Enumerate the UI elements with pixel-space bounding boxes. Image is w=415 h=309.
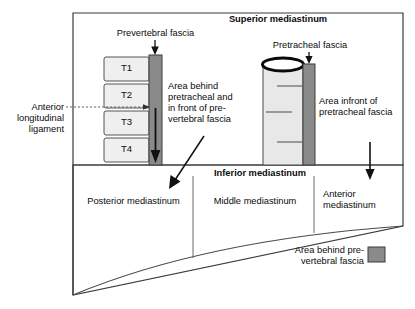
vertebra-label-t1: T1 xyxy=(104,62,149,73)
legend-color-swatch xyxy=(368,247,385,262)
superior-mediastinum-title: Superior mediastinum xyxy=(203,14,353,25)
pretracheal-fascia-label: Pretracheal fascia xyxy=(258,40,362,51)
area-behind-pretracheal-label-line1: Area behind xyxy=(168,81,218,92)
area-behind-pretracheal-label-line4: vertebral fascia xyxy=(168,114,231,125)
trachea-body xyxy=(263,64,303,165)
posterior-mediastinum-label: Posterior mediastinum xyxy=(76,196,191,207)
middle-mediastinum-label: Middle mediastinum xyxy=(199,196,311,207)
area-behind-pretracheal-label-line3: in front of pre- xyxy=(168,103,226,114)
anterior-longitudinal-ligament-label-line1: Anterior xyxy=(0,102,64,113)
vertebra-label-t4: T4 xyxy=(104,143,149,154)
trachea-ring-icon xyxy=(263,58,304,71)
posterior-mediastinum-arrow-head xyxy=(169,175,181,189)
anterior-longitudinal-ligament-label-line3: ligament xyxy=(0,124,64,135)
anterior-mediastinum-label-line1: Anterior xyxy=(323,189,356,200)
prevertebral-fascia-leader-head xyxy=(151,47,159,56)
anterior-mediastinum-arrow-head xyxy=(365,169,374,180)
diagram-canvas: Superior mediastinum Inferior mediastinu… xyxy=(0,0,415,309)
area-infront-pretracheal-label-line1: Area infront of xyxy=(319,96,377,107)
pretracheal-fascia-leader-head xyxy=(305,56,312,64)
inferior-mediastinum-title: Inferior mediastinum xyxy=(185,168,335,179)
area-infront-pretracheal-label-line2: pretracheal fascia xyxy=(319,107,392,118)
vertebra-label-t3: T3 xyxy=(104,116,149,127)
anterior-longitudinal-ligament-label-line2: longitudinal xyxy=(0,113,64,124)
area-behind-pretracheal-label-line2: pretracheal and xyxy=(168,92,233,103)
legend-label-line1: Area behind pre- xyxy=(268,245,364,256)
anterior-mediastinum-label-line2: mediastinum xyxy=(323,200,376,211)
vertebra-label-t2: T2 xyxy=(104,89,149,100)
pretracheal-fascia-strip xyxy=(303,64,315,165)
legend-label-line2: vertebral fascia xyxy=(268,256,364,267)
prevertebral-fascia-label: Prevertebral fascia xyxy=(99,28,212,39)
